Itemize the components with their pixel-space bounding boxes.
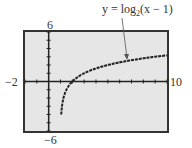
calculator-graph <box>0 0 192 148</box>
